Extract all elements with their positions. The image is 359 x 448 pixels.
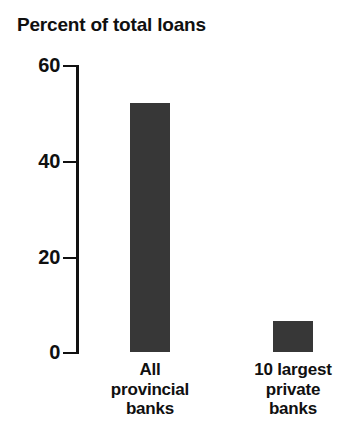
category-label-line: All	[80, 360, 220, 380]
y-tick-label-0: 0	[0, 342, 60, 362]
bar-10-largest-private-banks	[273, 321, 313, 352]
plot-area: 60 40 20 0 All provincial banks 10 large…	[0, 0, 359, 448]
y-tick-label-60: 60	[0, 55, 60, 75]
category-label-line: banks	[80, 399, 220, 419]
bar-all-provincial-banks	[130, 103, 170, 352]
category-label-line: banks	[223, 399, 359, 419]
y-tick-mark-20	[63, 257, 77, 259]
y-tick-mark-0	[63, 352, 77, 354]
y-axis-line	[76, 65, 79, 354]
category-label-all-provincial-banks: All provincial banks	[80, 360, 220, 419]
category-label-line: private	[223, 380, 359, 400]
bar-chart-figure: Percent of total loans 60 40 20 0 All pr…	[0, 0, 359, 448]
category-label-line: provincial	[80, 380, 220, 400]
category-label-10-largest-private-banks: 10 largest private banks	[223, 360, 359, 419]
y-tick-mark-60	[63, 65, 77, 67]
y-tick-label-20: 20	[0, 247, 60, 267]
category-label-line: 10 largest	[223, 360, 359, 380]
y-tick-mark-40	[63, 161, 77, 163]
y-tick-label-40: 40	[0, 151, 60, 171]
